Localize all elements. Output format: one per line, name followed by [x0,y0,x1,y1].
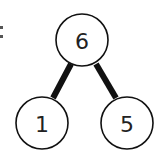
edge-whole-to-part-left [53,64,71,98]
node-whole: 6 [56,14,108,66]
bond-svg: 6 1 5 [0,0,160,164]
edge-whole-to-part-right [96,64,116,98]
node-part-left-label: 1 [35,112,49,137]
node-part-left: 1 [16,97,68,149]
node-part-right: 5 [101,97,153,149]
node-part-right-label: 5 [120,112,134,137]
node-whole-label: 6 [75,29,89,54]
number-bond-diagram: 6 1 5 [0,0,160,164]
